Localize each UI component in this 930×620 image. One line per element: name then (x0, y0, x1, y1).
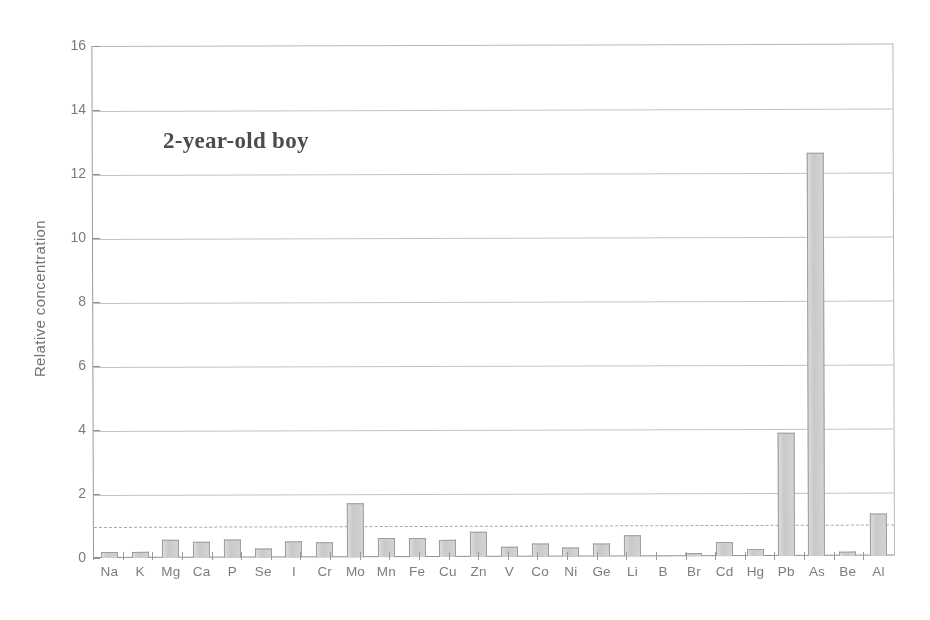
x-axis-tick-mark (450, 552, 480, 562)
x-axis-tick-mark (390, 552, 420, 562)
x-axis-tick-label: Ni (555, 564, 586, 592)
x-axis-tick-mark (538, 552, 568, 562)
x-axis-tick-mark (627, 552, 657, 562)
bar-slot (339, 45, 371, 557)
x-axis-tick-mark (301, 552, 331, 562)
x-axis-tick-label: Mn (371, 564, 402, 592)
x-axis-tick-label: Co (525, 564, 556, 592)
x-axis-tick-mark (242, 552, 272, 562)
bar-slot (646, 44, 678, 556)
bar-slot (708, 44, 740, 556)
x-axis-tick-mark (213, 552, 243, 562)
bar-slot (185, 46, 217, 558)
x-axis-tick-mark (864, 552, 894, 562)
bar (807, 153, 825, 556)
y-axis-tick-label: 12 (54, 165, 86, 181)
y-axis-tick-label: 4 (54, 421, 86, 437)
x-axis-tick-mark (331, 552, 361, 562)
bar-slot (462, 45, 494, 557)
y-axis-tick-label: 2 (54, 485, 86, 501)
bar-slot (431, 45, 463, 557)
bar-slot (246, 45, 278, 557)
x-axis-tick-mark (183, 552, 213, 562)
x-axis-tick-label: Se (248, 564, 279, 592)
y-axis-tick-mark (93, 366, 100, 367)
x-axis-tick-label: Cd (709, 564, 740, 592)
bar (777, 433, 794, 556)
x-axis-tick-label: B (648, 564, 679, 592)
y-axis-tick-mark (93, 46, 100, 47)
x-axis-tick-label: Ca (186, 564, 217, 592)
y-axis-tick-label: 8 (54, 293, 86, 309)
x-axis-tick-label: Na (94, 564, 125, 592)
y-axis-tick-mark (93, 430, 100, 431)
bar-slot (369, 45, 401, 557)
y-axis-tick-mark (93, 494, 100, 495)
y-axis-title: Relative concentration (31, 184, 48, 414)
x-axis-tick-mark (716, 552, 746, 562)
bar-slot (831, 44, 863, 556)
bar-slot (554, 44, 586, 556)
x-axis-tick-mark (775, 552, 805, 562)
x-axis-tick-label: Fe (402, 564, 433, 592)
bar (347, 503, 364, 557)
y-axis-tick-label: 10 (54, 229, 86, 245)
bar-slot (400, 45, 432, 557)
bar-series (92, 43, 894, 558)
chart-annotation: 2-year-old boy (163, 128, 309, 154)
x-axis-tick-label: Ge (586, 564, 617, 592)
bar-slot (523, 45, 555, 557)
x-axis-tick-mark (657, 552, 687, 562)
x-axis-tick-label: Hg (740, 564, 771, 592)
x-axis-tick-mark (835, 552, 865, 562)
x-axis-tick-label: K (125, 564, 156, 592)
x-axis-tick-mark (361, 552, 391, 562)
x-axis-tick-mark (153, 552, 183, 562)
x-axis-tick-label: V (494, 564, 525, 592)
y-axis-tick-mark (93, 110, 100, 111)
bar-slot (677, 44, 709, 556)
x-axis-tick-mark (568, 552, 598, 562)
x-axis-tick-label: Al (863, 564, 894, 592)
x-axis-tick-label: Mg (156, 564, 187, 592)
y-axis-tick-mark (93, 302, 100, 303)
x-axis-tick-mark (420, 552, 450, 562)
x-axis-tick-mark (687, 552, 717, 562)
x-axis-tick-labels: NaKMgCaPSeICrMoMnFeCuZnVCoNiGeLiBBrCdHgP… (94, 564, 894, 592)
bar-slot (492, 45, 524, 557)
x-axis-tick-mark (598, 552, 628, 562)
x-axis-tick-mark (805, 552, 835, 562)
x-axis-tick-label: Pb (771, 564, 802, 592)
y-axis-tick-label: 6 (54, 357, 86, 373)
x-axis-tick-mark (746, 552, 776, 562)
x-axis-tick-label: Be (832, 564, 863, 592)
bar (870, 514, 887, 556)
x-axis-tick-mark (272, 552, 302, 562)
x-axis-tick-mark (479, 552, 509, 562)
y-axis-tick-label: 16 (54, 37, 86, 53)
bar-slot (215, 46, 247, 558)
y-axis-tick-mark (93, 238, 100, 239)
x-axis-tick-label: Li (617, 564, 648, 592)
bar-slot (615, 44, 647, 556)
bar-slot (862, 43, 894, 555)
bar-slot (769, 44, 801, 556)
y-axis-tick-mark (93, 174, 100, 175)
chart-canvas: Relative concentration 0246810121416 NaK… (0, 0, 930, 620)
bar-slot (123, 46, 155, 558)
x-axis-tick-label: Mo (340, 564, 371, 592)
bar-slot (277, 45, 309, 557)
bar-slot (154, 46, 186, 558)
bar-slot (308, 45, 340, 557)
x-axis-tick-label: Cu (432, 564, 463, 592)
x-axis-tick-marks (94, 552, 894, 562)
y-axis-tick-label: 0 (54, 549, 86, 565)
x-axis-tick-mark (509, 552, 539, 562)
y-axis-tick-labels: 0246810121416 (48, 46, 86, 558)
y-axis-tick-label: 14 (54, 101, 86, 117)
x-axis-tick-mark (124, 552, 154, 562)
x-axis-tick-label: Cr (309, 564, 340, 592)
x-axis-tick-label: As (802, 564, 833, 592)
x-axis-tick-label: P (217, 564, 248, 592)
x-axis-tick-label: I (279, 564, 310, 592)
